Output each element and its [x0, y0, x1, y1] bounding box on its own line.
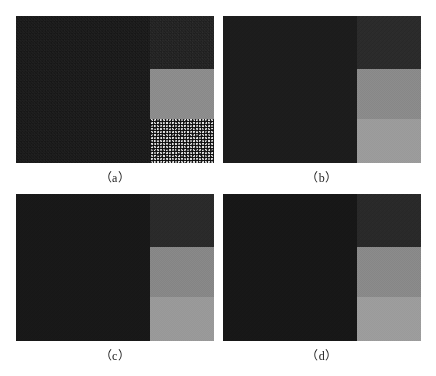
panel-d-caption: （d） [223, 346, 421, 364]
panel-d-band-bottom [357, 297, 421, 341]
panel-b-right-region [357, 16, 421, 163]
panel-d-band-mid [357, 247, 421, 297]
panel-a-right-region [150, 16, 214, 163]
panel-c-band-bottom [150, 297, 214, 341]
panel-c-caption: （c） [16, 346, 214, 364]
panel-b-band-mid [357, 69, 421, 119]
panel-c-band-top [150, 194, 214, 247]
noise-texture-icon [16, 16, 150, 163]
noise-texture-icon [150, 16, 214, 69]
panel-d: （d） [223, 194, 421, 341]
panel-b-band-top [357, 16, 421, 69]
panel-d-image [223, 194, 421, 341]
panel-c-left-region [16, 194, 150, 341]
noise-texture-icon [357, 194, 421, 247]
noise-texture-icon [150, 247, 214, 297]
salt-pepper-noise-icon [150, 119, 214, 163]
noise-texture-icon [357, 119, 421, 163]
panel-b-band-bottom [357, 119, 421, 163]
panel-c-band-mid [150, 247, 214, 297]
panel-d-band-top [357, 194, 421, 247]
noise-texture-icon [150, 297, 214, 341]
panel-a-left-region [16, 16, 150, 163]
noise-texture-icon [16, 194, 150, 341]
panel-a-caption: （a） [16, 168, 214, 186]
panel-b-image [223, 16, 421, 163]
noise-texture-icon [223, 194, 357, 341]
panel-c-right-region [150, 194, 214, 341]
noise-texture-icon [357, 69, 421, 119]
panel-a-band-bottom [150, 119, 214, 163]
panel-b-left-region [223, 16, 357, 163]
noise-texture-icon [223, 16, 357, 163]
panel-d-left-region [223, 194, 357, 341]
panel-c: （c） [16, 194, 214, 341]
noise-texture-icon [357, 297, 421, 341]
panel-b-caption: （b） [223, 168, 421, 186]
panel-c-image [16, 194, 214, 341]
panel-a-band-mid [150, 69, 214, 119]
panel-a-band-top [150, 16, 214, 69]
figure-root: （a） （b） [0, 0, 436, 376]
noise-texture-icon [150, 69, 214, 119]
noise-texture-icon [150, 194, 214, 247]
panel-b: （b） [223, 16, 421, 163]
panel-d-right-region [357, 194, 421, 341]
panel-a-image [16, 16, 214, 163]
noise-texture-icon [357, 247, 421, 297]
panel-a: （a） [16, 16, 214, 163]
noise-texture-icon [357, 16, 421, 69]
